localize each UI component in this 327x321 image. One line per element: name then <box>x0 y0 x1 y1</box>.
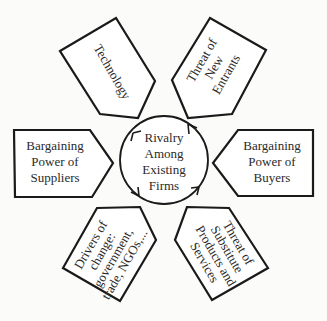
buyers-label-line3: Buyers <box>254 170 291 185</box>
suppliers-label-line3: Suppliers <box>30 170 79 185</box>
force-new-entrants: Threat of New Entrants <box>172 18 266 118</box>
force-substitutes: Threat of Substitute Products and Servic… <box>175 207 268 300</box>
rivalry-label-line1: Rivalry <box>145 130 184 145</box>
suppliers-label-line2: Power of <box>31 154 79 169</box>
buyers-label-line1: Bargaining <box>243 138 301 153</box>
force-buyers: Bargaining Power of Buyers <box>213 130 313 196</box>
suppliers-label-line1: Bargaining <box>26 138 84 153</box>
force-suppliers: Bargaining Power of Suppliers <box>14 130 113 197</box>
rivalry-label-line4: Firms <box>149 178 179 193</box>
force-technology: Technology <box>60 18 155 118</box>
rivalry-hub: Rivalry Among Existing Firms <box>120 116 208 204</box>
rivalry-label-line3: Existing <box>142 162 186 177</box>
rivalry-label-line2: Among <box>145 146 185 161</box>
five-forces-diagram: Technology Threat of New Entrants Bargai… <box>0 0 327 321</box>
force-drivers-of-change: Drivers of change: government, trade, NG… <box>63 207 156 302</box>
buyers-label-line2: Power of <box>248 154 296 169</box>
